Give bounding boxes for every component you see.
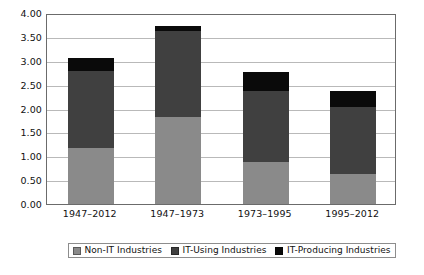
legend-swatch-it-producing: [275, 247, 283, 255]
legend-item-label: IT-Using Industries: [182, 246, 266, 255]
bar-group[interactable]: [68, 58, 114, 204]
legend-item-label: IT-Producing Industries: [287, 246, 391, 255]
x-axis-tick-label: 1973–1995: [221, 208, 309, 219]
x-axis-tick-label: 1995–2012: [309, 208, 397, 219]
plot-area: [46, 14, 396, 205]
bar-segment[interactable]: [330, 91, 376, 107]
y-axis-tick-label: 2.00: [2, 105, 42, 115]
y-axis-tick-label: 3.50: [2, 33, 42, 43]
bar-segment[interactable]: [243, 91, 289, 162]
bar-group[interactable]: [155, 26, 201, 204]
y-axis-tick-label: 1.50: [2, 128, 42, 138]
bar-group[interactable]: [243, 72, 289, 204]
y-axis-tick-label: 0.50: [2, 176, 42, 186]
y-axis-tick-label: 1.00: [2, 152, 42, 162]
bar-segment[interactable]: [330, 107, 376, 174]
x-axis-tick-labels: 1947–20121947–19731973–19951995–2012: [46, 208, 396, 224]
bar-segment[interactable]: [68, 148, 114, 204]
x-axis-tick-label: 1947–1973: [134, 208, 222, 219]
x-axis-tick-label: 1947–2012: [46, 208, 134, 219]
y-axis-tick-label: 0.00: [2, 200, 42, 210]
legend-swatch-non-it: [73, 247, 81, 255]
y-axis-tick-label: 4.00: [2, 9, 42, 19]
bar-segment[interactable]: [155, 117, 201, 204]
bar-segment[interactable]: [330, 174, 376, 204]
legend-item[interactable]: IT-Using Industries: [171, 246, 267, 255]
stacked-bar-chart: 4.003.503.002.502.001.501.000.500.00 194…: [0, 0, 424, 275]
bar-segment[interactable]: [243, 72, 289, 91]
bar-segment[interactable]: [155, 31, 201, 116]
bar-segment[interactable]: [155, 26, 201, 31]
bar-segment[interactable]: [243, 162, 289, 204]
bar-group[interactable]: [330, 91, 376, 204]
bar-segment[interactable]: [68, 71, 114, 147]
y-axis-tick-labels: 4.003.503.002.502.001.501.000.500.00: [0, 14, 42, 205]
chart-legend: Non-IT IndustriesIT-Using IndustriesIT-P…: [68, 243, 396, 258]
bar-series-container: [47, 14, 396, 204]
y-axis-tick-label: 3.00: [2, 57, 42, 67]
legend-item[interactable]: Non-IT Industries: [73, 246, 162, 255]
y-axis-tick-label: 2.50: [2, 81, 42, 91]
legend-swatch-it-using: [171, 247, 179, 255]
bar-segment[interactable]: [68, 58, 114, 71]
legend-item[interactable]: IT-Producing Industries: [275, 246, 390, 255]
legend-item-label: Non-IT Industries: [85, 246, 162, 255]
